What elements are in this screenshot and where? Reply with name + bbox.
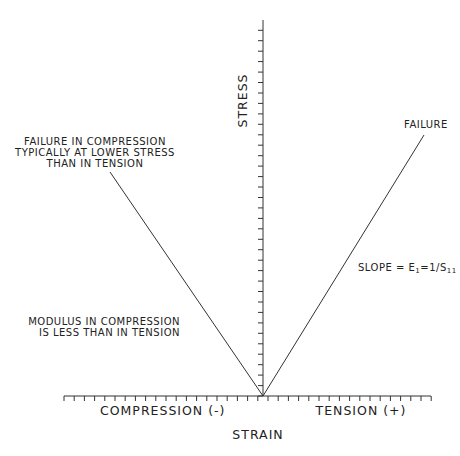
failure-label: FAILURE [398, 119, 454, 130]
slope-sub2: 11 [447, 267, 457, 275]
slope-prefix: SLOPE = E [358, 262, 415, 273]
note-line-2: TYPICALLY AT LOWER STRESS [0, 147, 190, 158]
compression-line [110, 172, 263, 396]
slope-label: SLOPE = E1=1/S11 [358, 262, 458, 277]
compression-failure-note: FAILURE IN COMPRESSION TYPICALLY AT LOWE… [0, 136, 190, 169]
y-axis-label: STRESS [237, 71, 248, 131]
note-line-1: FAILURE IN COMPRESSION [0, 136, 190, 147]
compression-label: COMPRESSION (-) [100, 405, 220, 416]
tension-label: TENSION (+) [306, 405, 416, 416]
modulus-line-1: MODULUS IN COMPRESSION [28, 316, 180, 327]
note-line-3: THAN IN TENSION [0, 158, 190, 169]
modulus-note: MODULUS IN COMPRESSION IS LESS THAN IN T… [28, 316, 180, 338]
modulus-line-2: IS LESS THAN IN TENSION [28, 327, 180, 338]
slope-mid: =1/S [420, 262, 446, 273]
stress-strain-diagram [0, 0, 460, 456]
x-axis-label: STRAIN [218, 429, 298, 440]
